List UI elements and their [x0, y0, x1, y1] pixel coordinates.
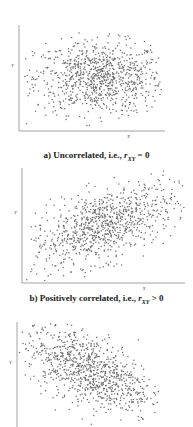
caption-text: b) Positively correlated, i.e., — [29, 293, 138, 303]
scatter-plot-negative: Y — [9, 322, 159, 427]
caption-positive: b) Positively correlated, i.e., rXY > 0 — [0, 293, 193, 305]
x-axis-label: X — [142, 286, 147, 291]
x-axis-label: X — [126, 134, 131, 139]
scatter-plot-positive: XY — [14, 168, 185, 291]
y-axis-label: Y — [11, 63, 15, 68]
caption-suffix: > 0 — [149, 293, 163, 303]
y-axis-label: Y — [14, 210, 18, 215]
caption-suffix: = 0 — [135, 150, 149, 160]
scatter-plot-uncorrelated: XY — [11, 25, 165, 139]
caption-text: a) Uncorrelated, i.e., — [44, 150, 125, 160]
y-axis-label: Y — [9, 360, 13, 365]
scatter-plots: XY XY Y — [0, 0, 193, 427]
caption-uncorrelated: a) Uncorrelated, i.e., rXY = 0 — [0, 150, 193, 162]
